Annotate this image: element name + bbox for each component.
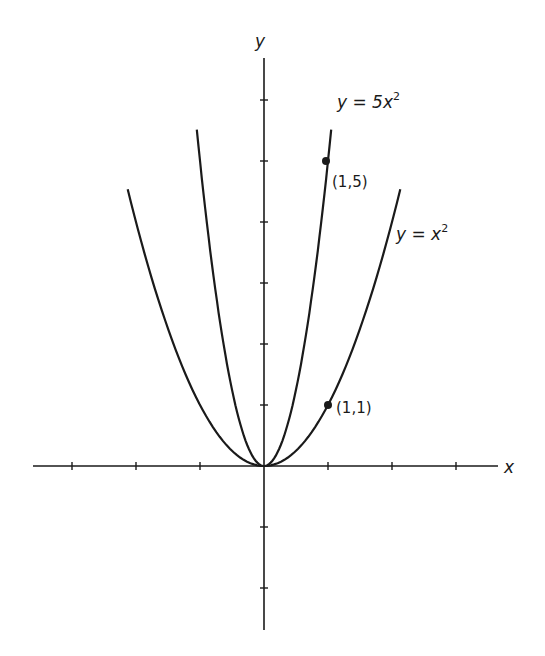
curve-label-x2: y = x2 xyxy=(395,222,448,244)
parabola-figure: x y y = 5x2 y = x2 (1,1) (1,5) xyxy=(0,0,545,656)
point-label-1-1: (1,1) xyxy=(336,399,372,417)
x-axis-label: x xyxy=(503,457,515,477)
curve-label-x2-exponent: 2 xyxy=(441,222,448,235)
curve-label-5x2-exponent: 2 xyxy=(393,90,400,103)
y-axis-label: y xyxy=(254,31,266,51)
plot-canvas: x y y = 5x2 y = x2 (1,1) (1,5) xyxy=(0,0,545,656)
point-1-5-marker xyxy=(322,157,330,165)
point-label-1-5: (1,5) xyxy=(332,173,368,191)
curve-label-5x2: y = 5x2 xyxy=(336,90,400,112)
curve-label-x2-text: y = x xyxy=(395,224,442,244)
curve-label-5x2-text: y = 5x xyxy=(336,92,394,112)
point-1-1-marker xyxy=(324,401,332,409)
